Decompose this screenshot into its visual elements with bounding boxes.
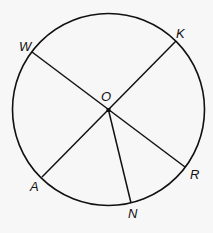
center-point [107,108,111,112]
label-r: R [190,167,199,182]
label-n: N [128,206,138,221]
label-k: K [176,26,186,41]
label-w: W [19,39,33,54]
circle-diagram: O W K R N A [0,0,213,233]
label-center-o: O [101,89,111,104]
label-a: A [29,179,39,194]
